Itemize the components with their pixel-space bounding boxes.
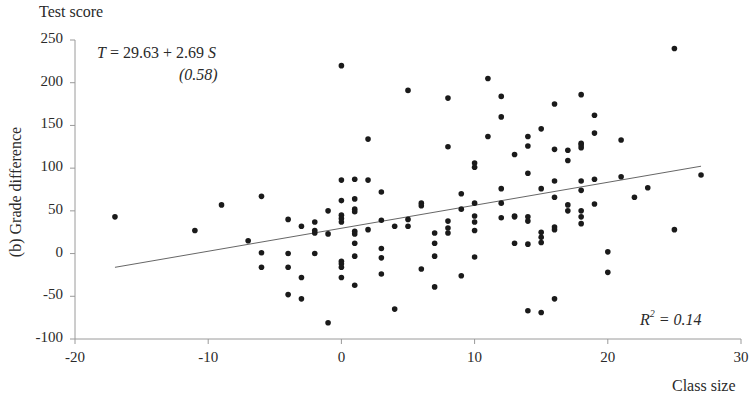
data-point [285,217,291,223]
axes [70,40,741,344]
data-point [472,219,478,225]
data-point [352,282,358,288]
data-point [552,296,558,302]
data-point [219,202,225,208]
data-point [552,227,558,233]
data-point [325,208,331,214]
data-point [578,92,584,98]
data-point [458,191,464,197]
data-point [472,200,478,206]
data-point [512,152,518,158]
data-point [538,235,544,241]
data-point [605,270,611,276]
data-point [525,170,531,176]
x-tick-label: 20 [588,349,628,366]
data-point [538,240,544,246]
data-point [352,176,358,182]
data-point [525,218,531,224]
y-tick-label: -50 [13,286,63,303]
data-point [365,227,371,233]
data-point [565,147,571,153]
data-point [312,219,318,225]
data-point [299,275,305,281]
data-point [365,136,371,142]
data-point [698,172,704,178]
x-tick-label: -10 [188,349,228,366]
data-point [339,264,345,270]
x-axis-label: Class size [672,377,736,395]
data-point [299,296,305,302]
data-point [299,223,305,229]
data-point [592,130,598,136]
data-point [512,241,518,247]
x-tick-label: 0 [321,349,361,366]
data-point [419,266,425,272]
data-point [339,275,345,281]
data-point [432,230,438,236]
data-point [245,238,251,244]
data-point [472,213,478,219]
data-point [379,255,385,261]
y-axis-top-label: Test score [39,3,103,21]
data-point [525,308,531,314]
data-point [618,137,624,143]
data-point [645,185,651,191]
data-point [592,112,598,118]
data-point [538,186,544,192]
data-point [672,227,678,233]
y-tick-label: 150 [13,115,63,132]
data-point [472,164,478,170]
data-point [672,46,678,52]
data-point [192,228,198,234]
data-point [632,194,638,200]
y-tick-label: -100 [13,329,63,346]
data-point [392,306,398,312]
data-point [498,186,504,192]
data-point [339,198,345,204]
data-point [458,206,464,212]
data-point [379,189,385,195]
data-point [285,251,291,257]
data-point [578,178,584,184]
y-tick-label: 250 [13,30,63,47]
r-squared: R2 = 0.14 [640,308,702,329]
data-point [339,219,345,225]
data-point [592,201,598,207]
data-point [525,143,531,149]
data-points [112,46,704,326]
data-point [472,254,478,260]
data-point [445,144,451,150]
regression-equation: T = 29.63 + 2.69 S [97,44,216,62]
data-point [485,76,491,82]
data-point [578,221,584,227]
data-point [538,310,544,316]
data-point [552,194,558,200]
y-tick-label: 200 [13,73,63,90]
data-point [525,241,531,247]
data-point [498,114,504,120]
y-tick-label: 50 [13,201,63,218]
data-point [405,217,411,223]
data-point [379,217,385,223]
data-point [498,215,504,221]
standard-error: (0.58) [179,66,218,84]
y-tick-label: 0 [13,244,63,261]
y-tick-label: 100 [13,158,63,175]
data-point [552,147,558,153]
data-point [472,228,478,234]
data-point [285,292,291,298]
data-point [498,200,504,206]
data-point [365,177,371,183]
data-point [352,241,358,247]
data-point [432,253,438,259]
data-point [578,214,584,220]
data-point [445,218,451,224]
data-point [552,178,558,184]
data-point [339,177,345,183]
data-point [352,196,358,202]
data-point [312,230,318,236]
data-point [259,194,265,200]
data-point [405,88,411,94]
data-point [405,223,411,229]
data-point [325,320,331,326]
